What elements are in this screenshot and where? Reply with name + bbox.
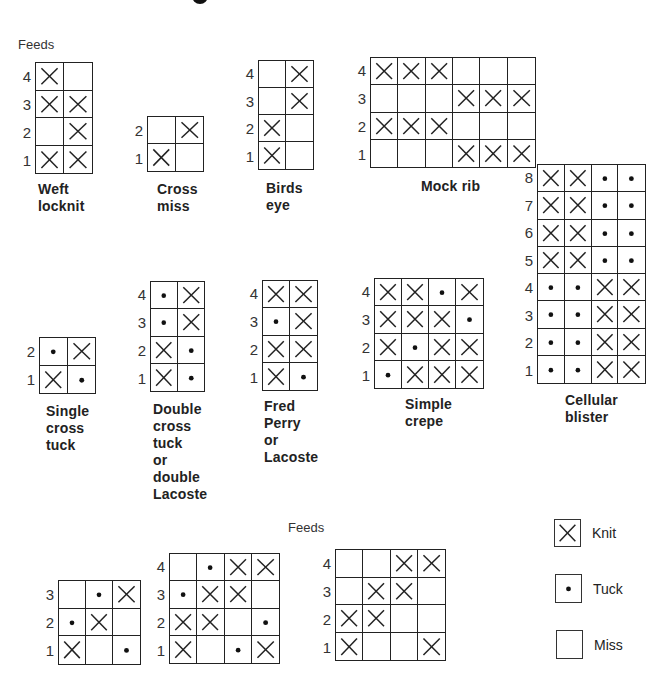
- knit-cross-icon: [64, 146, 92, 174]
- miss-empty-cell: [371, 140, 398, 167]
- tuck-dot-icon: [178, 337, 205, 364]
- feed-number: 1: [317, 633, 331, 661]
- tuck-dot-icon: [290, 363, 317, 390]
- feeds-axis-label-top: Feeds: [18, 37, 54, 52]
- knit-cross-icon: [402, 361, 429, 388]
- knit-cross-icon: [565, 165, 592, 192]
- knit-cross-icon: [508, 140, 535, 167]
- miss-empty-cell: [286, 142, 313, 169]
- dot-icon: [555, 574, 582, 603]
- knit-cross-icon: [456, 361, 483, 388]
- structure-caption: Weft locknit: [38, 181, 85, 215]
- knit-cross-icon: [456, 334, 483, 361]
- tuck-dot-icon: [86, 581, 113, 609]
- feed-number: 3: [132, 309, 146, 337]
- miss-empty-cell: [64, 63, 92, 91]
- tuck-dot-icon: [565, 356, 592, 383]
- feed-numbers: 4321: [151, 553, 165, 664]
- feed-number: 2: [244, 336, 258, 364]
- knit-cross-icon: [402, 306, 429, 333]
- feed-number: 1: [40, 637, 54, 665]
- miss-empty-cell: [197, 636, 224, 663]
- tuck-dot-icon: [618, 220, 645, 247]
- knit-cross-icon: [565, 247, 592, 274]
- miss-empty-cell: [259, 88, 286, 115]
- feed-numbers: 4321: [244, 280, 258, 391]
- knit-cross-icon: [391, 550, 418, 578]
- heading-glyph-fragment: [192, 0, 208, 4]
- knit-cross-icon: [40, 366, 68, 394]
- notation-grid-birds-eye: [258, 60, 314, 170]
- knit-cross-icon: [263, 336, 290, 363]
- feed-number: 7: [519, 192, 533, 220]
- feed-number: 3: [17, 90, 31, 118]
- knit-cross-icon: [592, 329, 619, 356]
- tuck-dot-icon: [618, 192, 645, 219]
- knit-cross-icon: [480, 85, 507, 112]
- knit-cross-icon: [170, 636, 197, 663]
- knit-cross-icon: [148, 144, 176, 171]
- miss-empty-cell: [148, 117, 176, 144]
- feed-number: 2: [21, 337, 35, 366]
- empty-box-icon: [556, 630, 583, 659]
- knit-cross-icon: [286, 61, 313, 88]
- knit-cross-icon: [538, 247, 565, 274]
- feed-number: 2: [151, 609, 165, 637]
- legend-label-knit: Knit: [592, 525, 616, 541]
- miss-empty-cell: [453, 58, 480, 85]
- miss-empty-cell: [36, 118, 64, 146]
- structure-caption: Fred Perry or Lacoste: [264, 398, 318, 466]
- feed-number: 4: [151, 553, 165, 581]
- feed-numbers: 21: [129, 116, 143, 172]
- tuck-dot-icon: [538, 301, 565, 328]
- feed-number: 2: [17, 118, 31, 146]
- miss-empty-cell: [508, 58, 535, 85]
- notation-grid-mock-rib: [370, 57, 536, 168]
- structure-caption: Single cross tuck: [46, 403, 89, 454]
- knit-cross-icon: [68, 338, 96, 366]
- miss-empty-cell: [426, 140, 453, 167]
- tuck-dot-icon: [538, 356, 565, 383]
- structure-caption: Simple crepe: [405, 396, 452, 430]
- feed-number: 2: [356, 334, 370, 362]
- miss-empty-cell: [371, 85, 398, 112]
- knit-cross-icon: [290, 308, 317, 335]
- notation-grid-cellular-blister: [537, 164, 646, 384]
- feed-numbers: 4321: [17, 62, 31, 174]
- knit-cross-icon: [86, 609, 113, 637]
- miss-empty-cell: [391, 633, 418, 661]
- miss-empty-cell: [252, 581, 279, 608]
- knit-cross-icon: [538, 192, 565, 219]
- knit-cross-icon: [375, 334, 402, 361]
- tuck-dot-icon: [592, 220, 619, 247]
- knit-cross-icon: [592, 356, 619, 383]
- tuck-dot-icon: [538, 329, 565, 356]
- knit-cross-icon: [391, 578, 418, 606]
- knit-cross-icon: [64, 118, 92, 146]
- knit-cross-icon: [398, 58, 425, 85]
- knit-cross-icon: [538, 165, 565, 192]
- tuck-dot-icon: [151, 309, 178, 336]
- feed-number: 2: [317, 605, 331, 633]
- knit-cross-icon: [371, 113, 398, 140]
- structure-caption: Double cross tuck or double Lacoste: [153, 401, 207, 503]
- feed-number: 4: [317, 549, 331, 577]
- miss-empty-cell: [86, 636, 113, 664]
- tuck-dot-icon: [225, 636, 252, 663]
- tuck-dot-icon: [151, 282, 178, 309]
- knit-cross-icon: [429, 306, 456, 333]
- knit-cross-icon: [336, 633, 363, 661]
- feed-numbers: 21: [21, 337, 35, 394]
- knit-cross-icon: [290, 336, 317, 363]
- knit-cross-icon: [64, 91, 92, 119]
- feed-number: 3: [356, 306, 370, 334]
- knit-cross-icon: [178, 282, 205, 309]
- miss-empty-cell: [398, 140, 425, 167]
- knit-cross-icon: [592, 301, 619, 328]
- miss-empty-cell: [426, 85, 453, 112]
- tuck-dot-icon: [565, 274, 592, 301]
- miss-empty-cell: [363, 550, 390, 578]
- legend-item-tuck: Tuck: [555, 574, 623, 603]
- feed-number: 1: [21, 366, 35, 395]
- feed-number: 1: [17, 146, 31, 174]
